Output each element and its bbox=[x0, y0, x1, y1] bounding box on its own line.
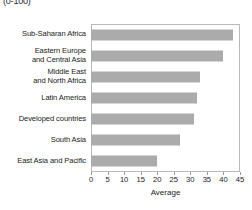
x-tick-label: 40 bbox=[219, 175, 227, 184]
x-tick-label: 45 bbox=[236, 175, 244, 184]
bar bbox=[91, 29, 233, 40]
bar bbox=[91, 135, 180, 146]
bar bbox=[91, 114, 194, 125]
x-axis-title: Average bbox=[91, 188, 240, 197]
category-label: East Asia and Pacific bbox=[0, 157, 86, 166]
bar-track bbox=[91, 109, 240, 130]
x-tick-label: 20 bbox=[153, 175, 161, 184]
category-label: Latin America bbox=[0, 94, 86, 103]
bar-track bbox=[91, 45, 240, 66]
x-tick-label: 10 bbox=[120, 175, 128, 184]
bar-track bbox=[91, 66, 240, 87]
bar bbox=[91, 92, 197, 103]
bar-track bbox=[91, 130, 240, 151]
bar-row: Sub-Saharan Africa bbox=[0, 24, 252, 45]
category-label: Middle East and North Africa bbox=[0, 68, 86, 85]
x-tick-label: 15 bbox=[136, 175, 144, 184]
bar-row: Latin America bbox=[0, 87, 252, 108]
bar-rows: Sub-Saharan AfricaEastern Europe and Cen… bbox=[0, 24, 252, 172]
x-tick-label: 5 bbox=[105, 175, 109, 184]
category-label: Developed countries bbox=[0, 115, 86, 124]
category-label: Sub-Saharan Africa bbox=[0, 30, 86, 39]
bar-row: Developed countries bbox=[0, 109, 252, 130]
x-tick-label: 25 bbox=[170, 175, 178, 184]
bar bbox=[91, 156, 157, 167]
bar-track bbox=[91, 151, 240, 172]
bar-row: South Asia bbox=[0, 130, 252, 151]
x-tick-label: 0 bbox=[89, 175, 93, 184]
bar-chart-figure: (0-100) Sub-Saharan AfricaEastern Europe… bbox=[0, 0, 252, 210]
category-label: South Asia bbox=[0, 136, 86, 145]
scale-annotation: (0-100) bbox=[3, 0, 31, 6]
bar-track bbox=[91, 87, 240, 108]
x-tick-label: 35 bbox=[203, 175, 211, 184]
bar-row: Eastern Europe and Central Asia bbox=[0, 45, 252, 66]
bar bbox=[91, 71, 200, 82]
x-tick-label: 30 bbox=[186, 175, 194, 184]
bar-row: Middle East and North Africa bbox=[0, 66, 252, 87]
category-label: Eastern Europe and Central Asia bbox=[0, 47, 86, 64]
bar bbox=[91, 50, 223, 61]
bar-track bbox=[91, 24, 240, 45]
bar-row: East Asia and Pacific bbox=[0, 151, 252, 172]
